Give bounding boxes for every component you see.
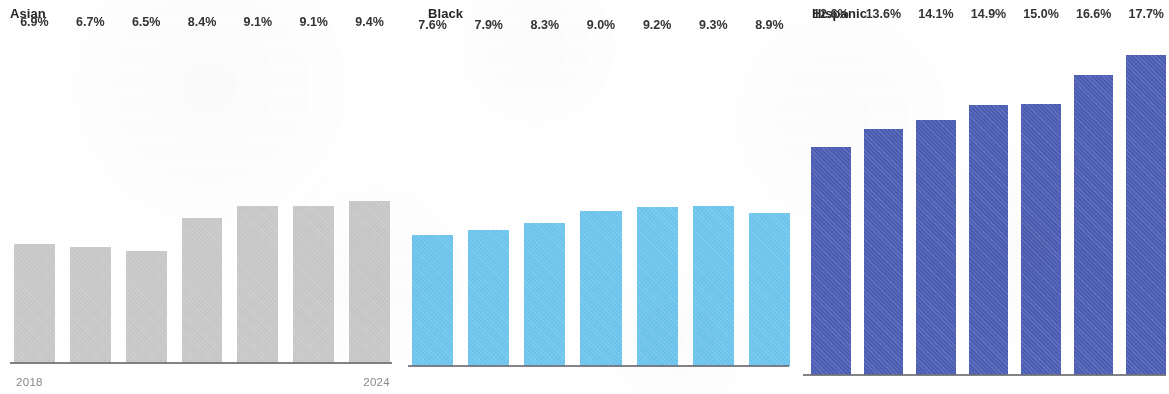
bar-value-label-hispanic-2024: 17.7%: [1129, 7, 1164, 21]
bar-asian-2024[interactable]: [349, 201, 390, 363]
bar-slot-black-2021[interactable]: 9.0%: [580, 36, 621, 366]
bar-slot-black-2018[interactable]: 7.6%: [412, 36, 453, 366]
chart-panel-asian: Asian 6.9% 6.7% 6.5% 8.4% 9.1% 9.1% 9.4%…: [0, 0, 400, 394]
bar-value-label-asian-2019: 6.7%: [76, 15, 105, 29]
bar-hispanic-2022[interactable]: [1021, 104, 1061, 375]
bar-value-label-hispanic-2019: 13.6%: [866, 7, 901, 21]
bar-asian-2020[interactable]: [126, 251, 167, 363]
axis-tick-end-asian: 2024: [363, 376, 390, 388]
bar-slot-black-2023[interactable]: 9.3%: [693, 36, 734, 366]
bar-slot-hispanic-2022[interactable]: 15.0%: [1021, 25, 1061, 375]
bar-black-2020[interactable]: [524, 223, 565, 366]
axis-tick-start-asian: 2018: [16, 376, 43, 388]
bar-hispanic-2021[interactable]: [969, 105, 1009, 375]
bar-value-label-asian-2018: 6.9%: [20, 15, 49, 29]
bar-black-2024[interactable]: [749, 213, 790, 366]
bar-slot-asian-2020[interactable]: 6.5%: [126, 33, 167, 363]
bar-slot-hispanic-2020[interactable]: 14.1%: [916, 25, 956, 375]
bar-value-label-asian-2021: 8.4%: [188, 15, 217, 29]
bar-black-2019[interactable]: [468, 230, 509, 366]
bar-slot-hispanic-2021[interactable]: 14.9%: [969, 25, 1009, 375]
bar-asian-2021[interactable]: [182, 218, 223, 363]
bar-black-2023[interactable]: [693, 206, 734, 366]
bar-value-label-hispanic-2023: 16.6%: [1076, 7, 1111, 21]
bar-slot-black-2020[interactable]: 8.3%: [524, 36, 565, 366]
plot-area: 7.6% 7.9% 8.3% 9.0% 9.2% 9.3% 8.9%: [412, 36, 790, 366]
bar-slot-black-2019[interactable]: 7.9%: [468, 36, 509, 366]
bar-hispanic-2024[interactable]: [1126, 55, 1166, 375]
bar-value-label-asian-2022: 9.1%: [244, 15, 273, 29]
bar-value-label-black-2018: 7.6%: [418, 18, 447, 32]
bar-slot-asian-2019[interactable]: 6.7%: [70, 33, 111, 363]
bar-value-label-hispanic-2022: 15.0%: [1023, 7, 1058, 21]
plot-area: 6.9% 6.7% 6.5% 8.4% 9.1% 9.1% 9.4%: [14, 33, 390, 363]
bar-value-label-hispanic-2018: 12.6%: [813, 7, 848, 21]
bar-value-label-asian-2020: 6.5%: [132, 15, 161, 29]
bar-slot-hispanic-2019[interactable]: 13.6%: [864, 25, 904, 375]
bar-hispanic-2020[interactable]: [916, 120, 956, 375]
x-axis-line: [408, 365, 789, 367]
bar-asian-2022[interactable]: [237, 206, 278, 363]
x-axis-line: [803, 374, 1166, 376]
bar-slot-asian-2022[interactable]: 9.1%: [237, 33, 278, 363]
chart-panel-hispanic: Hispanic 12.6% 13.6% 14.1% 14.9% 15.0% 1…: [793, 0, 1169, 394]
bar-value-label-black-2024: 8.9%: [755, 18, 784, 32]
bar-black-2018[interactable]: [412, 235, 453, 366]
bar-slot-hispanic-2018[interactable]: 12.6%: [811, 25, 851, 375]
bar-slot-black-2024[interactable]: 8.9%: [749, 36, 790, 366]
bar-value-label-black-2020: 8.3%: [531, 18, 560, 32]
plot-area: 12.6% 13.6% 14.1% 14.9% 15.0% 16.6% 17.7…: [811, 25, 1166, 375]
bar-hispanic-2019[interactable]: [864, 129, 904, 375]
bar-slot-asian-2021[interactable]: 8.4%: [182, 33, 223, 363]
bar-value-label-asian-2023: 9.1%: [299, 15, 328, 29]
bar-value-label-black-2021: 9.0%: [587, 18, 616, 32]
bar-hispanic-2018[interactable]: [811, 147, 851, 375]
bar-black-2021[interactable]: [580, 211, 621, 366]
bar-value-label-black-2022: 9.2%: [643, 18, 672, 32]
bar-value-label-hispanic-2020: 14.1%: [918, 7, 953, 21]
bar-black-2022[interactable]: [637, 207, 678, 366]
small-multiples-chart: Asian 6.9% 6.7% 6.5% 8.4% 9.1% 9.1% 9.4%…: [0, 0, 1169, 394]
bar-slot-black-2022[interactable]: 9.2%: [637, 36, 678, 366]
bar-slot-hispanic-2024[interactable]: 17.7%: [1126, 25, 1166, 375]
bar-asian-2023[interactable]: [293, 206, 334, 363]
bar-value-label-hispanic-2021: 14.9%: [971, 7, 1006, 21]
bar-asian-2018[interactable]: [14, 244, 55, 363]
bar-slot-asian-2018[interactable]: 6.9%: [14, 33, 55, 363]
bar-slot-asian-2024[interactable]: 9.4%: [349, 33, 390, 363]
bar-hispanic-2023[interactable]: [1074, 75, 1114, 375]
bar-slot-asian-2023[interactable]: 9.1%: [293, 33, 334, 363]
bar-value-label-black-2023: 9.3%: [699, 18, 728, 32]
bar-asian-2019[interactable]: [70, 247, 111, 363]
bar-value-label-asian-2024: 9.4%: [355, 15, 384, 29]
chart-panel-black: Black 7.6% 7.9% 8.3% 9.0% 9.2% 9.3% 8.9%: [400, 0, 793, 394]
bar-value-label-black-2019: 7.9%: [474, 18, 503, 32]
x-axis-line: [10, 362, 392, 364]
bar-slot-hispanic-2023[interactable]: 16.6%: [1074, 25, 1114, 375]
